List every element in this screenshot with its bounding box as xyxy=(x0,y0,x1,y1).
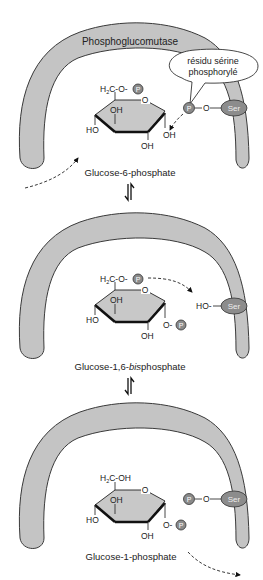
ester-oxygen: O xyxy=(203,103,210,113)
ring-oxygen: O xyxy=(142,285,149,295)
bubble-text-line2: phosphorylé xyxy=(188,67,237,77)
enzyme-phosphoglucomutase xyxy=(19,403,249,549)
phosphate-label: P xyxy=(187,105,192,112)
enzyme-label: Phosphoglucomutase xyxy=(82,36,179,47)
c1-ester-oxygen: O- xyxy=(163,520,173,530)
panel-glucose-1-6-bisphosphate: O H2C-O- P HO OH OH O- P HO- Ser Glucose… xyxy=(19,213,249,372)
equilibrium-arrow xyxy=(125,184,134,200)
phosphoserine: P O Ser xyxy=(184,491,248,507)
panel-glucose-6-phosphate: Phosphoglucomutase résidu sérine phospho… xyxy=(19,23,258,188)
phosphate-label: P xyxy=(179,522,184,529)
phosphate-label: P xyxy=(136,86,141,93)
phosphate-label: P xyxy=(179,322,184,329)
serine-hydroxyl: HO- Ser xyxy=(196,298,247,314)
c6-group: H2C-O- xyxy=(100,274,128,285)
glucose-ring: O H2C-O- P HO OH OH O- P xyxy=(86,274,186,341)
serine-label: Ser xyxy=(228,104,241,113)
ring-oxygen: O xyxy=(142,485,149,495)
panel-glucose-1-phosphate: O H2C-OH HO OH OH O- P P O Ser Glucose-1… xyxy=(19,403,249,575)
ring-oxygen: O xyxy=(142,95,149,105)
c3-hydroxyl: OH xyxy=(110,495,123,505)
c6-group: H2C-OH xyxy=(100,473,131,484)
bubble-text-line1: résidu sérine xyxy=(187,56,239,66)
c2-hydroxyl: OH xyxy=(141,531,154,541)
c6-group: H2C-O- xyxy=(100,84,128,95)
caption-glucose-6-phosphate: Glucose-6-phosphate xyxy=(85,167,176,178)
c1-hydroxyl: OH xyxy=(163,130,176,140)
product-exit-arrow xyxy=(188,552,240,575)
c4-hydroxyl: HO xyxy=(86,315,99,325)
speech-bubble: résidu sérine phosphorylé xyxy=(169,49,258,104)
transfer-arrow xyxy=(148,278,192,292)
c3-hydroxyl: OH xyxy=(110,105,123,115)
phosphoglucomutase-mechanism-diagram: Phosphoglucomutase résidu sérine phospho… xyxy=(0,0,263,580)
c2-hydroxyl: OH xyxy=(141,331,154,341)
c4-hydroxyl: HO xyxy=(86,515,99,525)
caption-glucose-1-phosphate: Glucose-1-phosphate xyxy=(86,551,177,562)
glucose-ring: O H2C-O- P HO OH OH OH xyxy=(86,84,176,151)
caption-glucose-1-6-bisphosphate: Glucose-1,6-bisphosphate xyxy=(75,361,186,372)
serine-label: Ser xyxy=(228,302,241,311)
equilibrium-arrow xyxy=(125,378,134,394)
phosphate-label: P xyxy=(187,496,192,503)
serine-hydroxyl-label: HO- xyxy=(196,301,212,311)
phosphate-label: P xyxy=(136,276,141,283)
ester-oxygen: O xyxy=(203,494,210,504)
phosphoserine: P O Ser xyxy=(184,100,248,116)
c4-hydroxyl: HO xyxy=(86,125,99,135)
serine-label: Ser xyxy=(228,495,241,504)
c1-ester-oxygen: O- xyxy=(163,320,173,330)
transfer-arrow xyxy=(170,114,183,130)
c3-hydroxyl: OH xyxy=(110,295,123,305)
c2-hydroxyl: OH xyxy=(141,141,154,151)
glucose-ring: O H2C-OH HO OH OH O- P xyxy=(86,473,186,541)
enzyme-phosphoglucomutase xyxy=(19,213,249,359)
